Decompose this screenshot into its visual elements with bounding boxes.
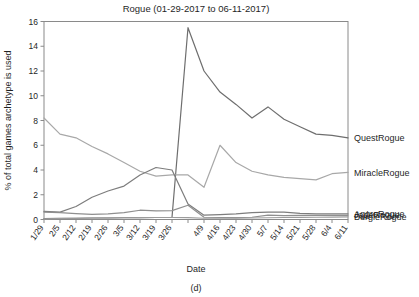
x-tick-label-19: 6/11: [332, 223, 349, 242]
y-tick-label-4: 8: [33, 116, 38, 126]
y-tick-label-6: 12: [29, 66, 39, 76]
series-line-questrogue: [44, 28, 348, 219]
legend-label-burglerogue: BurgleRogue: [354, 212, 407, 222]
x-tick-label-12: 4/23: [220, 223, 238, 243]
line-chart: Rogue (01-29-2017 to 06-11-2017)02468101…: [0, 0, 419, 297]
series-line-jaderogue: [44, 205, 348, 217]
x-tick-label-17: 5/28: [300, 223, 318, 243]
x-tick-label-11: 4/16: [204, 223, 222, 243]
legend-label-miraclerogue: MiracleRogue: [354, 168, 410, 178]
x-tick-label-4: 2/26: [92, 223, 110, 243]
chart-title: Rogue (01-29-2017 to 06-11-2017): [123, 3, 270, 14]
y-tick-label-1: 2: [33, 190, 38, 200]
legend-label-questrogue: QuestRogue: [354, 133, 405, 143]
x-tick-label-16: 5/21: [284, 223, 302, 243]
series-line-aggrorogue: [44, 168, 348, 216]
x-tick-label-3: 2/19: [76, 223, 94, 243]
x-tick-label-6: 3/12: [124, 223, 142, 243]
x-tick-label-7: 3/19: [140, 223, 158, 243]
x-tick-label-0: 1/29: [28, 223, 46, 243]
x-tick-label-15: 5/14: [268, 223, 286, 243]
figure-panel: Rogue (01-29-2017 to 06-11-2017)02468101…: [0, 0, 419, 297]
x-tick-label-8: 3/26: [156, 223, 174, 243]
y-tick-label-5: 10: [29, 91, 39, 101]
plot-frame: [44, 22, 348, 220]
y-tick-label-7: 14: [29, 41, 39, 51]
y-axis-label: % of total games archetype is used: [3, 50, 13, 190]
series-line-burglerogue: [44, 217, 348, 219]
y-tick-label-2: 4: [33, 165, 38, 175]
y-tick-label-8: 16: [29, 17, 39, 27]
y-tick-label-3: 6: [33, 140, 38, 150]
x-axis-label: Date: [186, 264, 205, 274]
figure-caption: (d): [191, 283, 202, 293]
x-tick-label-13: 4/30: [236, 223, 254, 243]
x-tick-label-2: 2/12: [60, 223, 78, 243]
